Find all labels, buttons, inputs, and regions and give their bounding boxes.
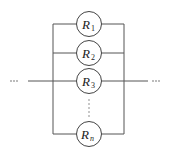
left-ellipsis bbox=[10, 80, 18, 82]
resistor-1: R 1 bbox=[77, 12, 102, 37]
resistor-letter: R bbox=[80, 127, 89, 142]
resistor-subscript: n bbox=[90, 134, 94, 143]
resistor-letter: R bbox=[81, 46, 90, 61]
resistor-letter: R bbox=[81, 74, 90, 89]
resistor-letter: R bbox=[81, 17, 90, 32]
resistor-n: R n bbox=[77, 122, 102, 147]
parallel-resistor-diagram: R 1 R 2 R 3 R n bbox=[0, 0, 169, 155]
resistor-subscript: 2 bbox=[91, 53, 95, 62]
resistor-3: R 3 bbox=[77, 69, 102, 94]
right-ellipsis bbox=[152, 80, 160, 82]
resistor-subscript: 3 bbox=[91, 81, 95, 90]
resistor-subscript: 1 bbox=[91, 24, 95, 33]
vertical-ellipsis bbox=[88, 99, 89, 116]
resistor-2: R 2 bbox=[77, 41, 102, 66]
